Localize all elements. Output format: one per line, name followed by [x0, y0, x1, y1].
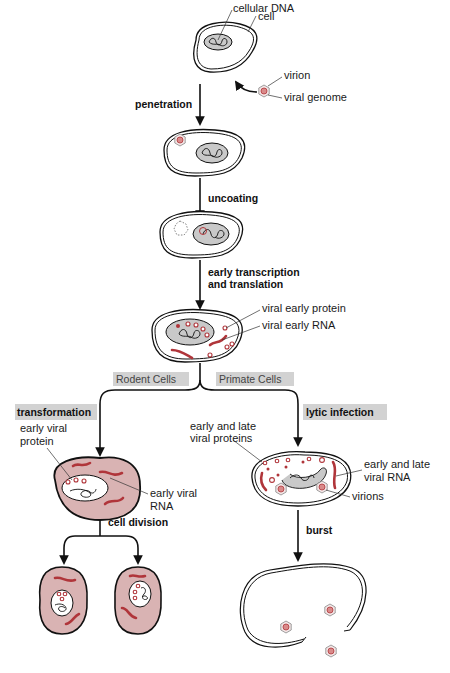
step-burst: burst [306, 524, 333, 536]
step-early-transcription-2: and translation [208, 278, 283, 290]
label-early-viral-rna-1: early viral [150, 487, 197, 499]
label-primate-cells: Primate Cells [219, 373, 281, 385]
label-lytic-infection: lytic infection [306, 406, 374, 418]
label-rodent-cells: Rodent Cells [116, 373, 176, 385]
step-uncoating: uncoating [208, 192, 258, 204]
daughter-cell-right [115, 567, 161, 634]
virus-infection-diagram: cellular DNA cell virion viral genome pe… [0, 0, 450, 673]
label-early-viral-protein-1: early viral [20, 422, 67, 434]
daughter-cell-left [40, 567, 87, 634]
label-viral-early-rna: viral early RNA [262, 319, 336, 331]
label-early-viral-protein-2: protein [20, 435, 54, 447]
division-left-arrow [64, 536, 100, 563]
step-early-transcription-1: early transcription [208, 266, 300, 278]
label-lytic-proteins-2: viral proteins [190, 432, 253, 444]
label-lytic-rna-2: viral RNA [364, 471, 411, 483]
stage-1-cell [194, 22, 257, 72]
stage-3-cell [160, 212, 243, 258]
label-viral-early-protein: viral early protein [262, 302, 346, 314]
stage-4-cell [152, 310, 242, 362]
label-lytic-rna-1: early and late [364, 458, 430, 470]
stage-2-cell [164, 130, 245, 176]
label-lytic-proteins-1: early and late [190, 420, 256, 432]
lytic-cell [252, 452, 351, 506]
burst-cell [240, 564, 366, 657]
label-transformation: transformation [17, 406, 91, 418]
virion-icon [259, 85, 269, 97]
division-right-arrow [100, 536, 138, 563]
label-virion: virion [284, 69, 310, 81]
label-early-viral-rna-2: RNA [150, 500, 174, 512]
step-penetration: penetration [135, 98, 192, 110]
step-cell-division: cell division [108, 516, 168, 528]
label-virions: virions [352, 490, 384, 502]
transformed-cell [54, 457, 140, 520]
label-cell: cell [258, 10, 275, 22]
attach-arrow [236, 82, 257, 92]
branch-left-arrow [100, 380, 200, 455]
label-viral-genome: viral genome [284, 91, 347, 103]
